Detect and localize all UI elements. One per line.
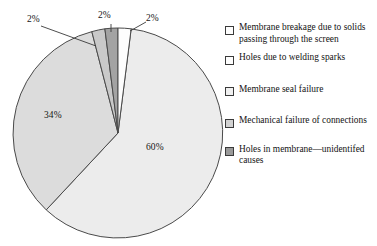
legend-item-label: Mechanical failure of connections [239,115,367,127]
legend-swatch-icon [225,147,234,156]
legend-item-label: Holes in membrane—unidentifed causes [239,144,377,167]
pie-chart-area: 60% 34% 2% 2% 2% [0,0,232,246]
legend-swatch-icon [225,26,234,35]
legend-item-membrane-seal-failure[interactable]: Membrane seal failure [225,84,377,97]
legend-item-holes-unidentifed-causes[interactable]: Holes in membrane—unidentifed causes [225,144,377,167]
legend-item-membrane-breakage[interactable]: Membrane breakage due to solids passing … [225,22,377,45]
legend-item-label: Holes due to welding sparks [239,52,345,64]
legend-item-label: Membrane breakage due to solids passing … [239,22,377,45]
legend-item-label: Membrane seal failure [239,84,323,96]
pie-value-label-2-right: 2% [146,13,159,23]
legend-swatch-icon [225,119,234,128]
pie-svg [0,0,232,246]
legend-swatch-icon [225,87,234,96]
pie-value-label-2-left: 2% [27,14,40,24]
legend-item-mechanical-failure[interactable]: Mechanical failure of connections [225,115,377,128]
legend-swatch-icon [225,56,234,65]
pie-value-label-2-middle: 2% [98,10,111,20]
pie-value-label-60: 60% [146,142,164,152]
legend-item-holes-welding-sparks[interactable]: Holes due to welding sparks [225,52,377,65]
pie-chart-figure: 60% 34% 2% 2% 2% Membrane breakage due t… [0,0,377,246]
pie-value-label-34: 34% [44,110,62,120]
chart-legend: Membrane breakage due to solids passing … [225,22,377,176]
